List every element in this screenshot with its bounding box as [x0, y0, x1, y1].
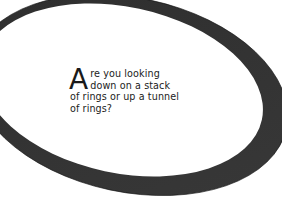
drop-cap: A [69, 69, 88, 91]
caption-text: Are you looking down on a stack of rings… [70, 68, 180, 114]
illustration: Are you looking down on a stack of rings… [0, 0, 282, 198]
